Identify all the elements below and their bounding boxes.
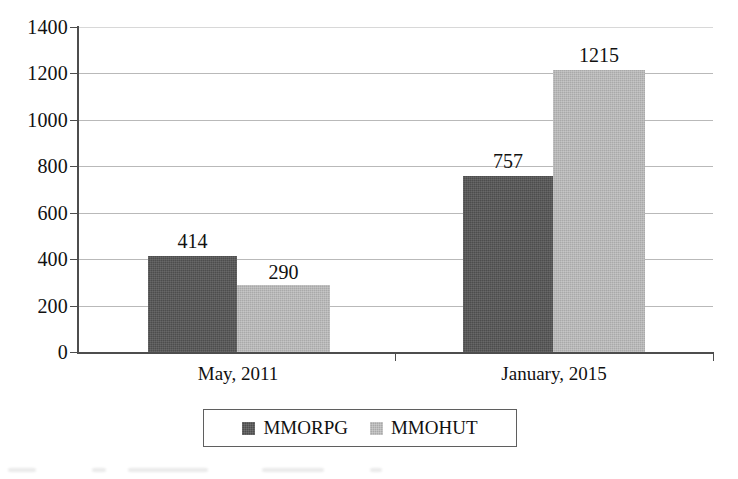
legend-swatch-icon-mmorpg (242, 422, 255, 435)
category-label-may-2011: May, 2011 (128, 362, 348, 386)
legend-item-mmohut[interactable]: MMOHUT (370, 418, 478, 438)
value-label-january-2015-mmorpg: 757 (463, 150, 553, 172)
y-axis-label-0: 0 (6, 342, 68, 362)
legend: MMORPG MMOHUT (203, 409, 517, 447)
legend-swatch-icon-mmohut (370, 422, 383, 435)
scan-artifact (370, 468, 382, 472)
y-axis-label-400: 400 (6, 249, 68, 269)
value-label-may-2011-mmorpg: 414 (148, 230, 237, 252)
scan-artifact (92, 468, 106, 472)
gridline-1400 (78, 27, 713, 28)
bar-may-2011-mmorpg[interactable] (148, 256, 237, 352)
y-axis-label-600: 600 (6, 203, 68, 223)
scan-artifact (128, 468, 208, 472)
y-axis-label-800: 800 (6, 156, 68, 176)
legend-label-mmorpg: MMORPG (263, 418, 347, 438)
bar-may-2011-mmohut[interactable] (237, 285, 330, 352)
x-tick-separator (395, 353, 396, 361)
scan-artifact (262, 468, 324, 472)
y-axis-label-1000: 1000 (6, 110, 68, 130)
value-label-january-2015-mmohut: 1215 (553, 44, 645, 66)
y-axis-label-1200: 1200 (6, 63, 68, 83)
legend-item-mmorpg[interactable]: MMORPG (242, 418, 347, 438)
y-axis-label-200: 200 (6, 296, 68, 316)
category-label-january-2015: January, 2015 (444, 362, 664, 386)
y-axis-line (77, 26, 79, 353)
bar-chart: 1400 1200 1000 800 600 400 200 0 (0, 0, 738, 479)
bar-january-2015-mmorpg[interactable] (463, 176, 553, 352)
plot-area (78, 27, 713, 352)
scan-artifact (8, 468, 36, 472)
value-label-may-2011-mmohut: 290 (237, 261, 330, 283)
y-axis-labels: 1400 1200 1000 800 600 400 200 0 (0, 0, 68, 479)
legend-label-mmohut: MMOHUT (391, 418, 478, 438)
y-axis-label-1400: 1400 (6, 17, 68, 37)
x-tick-right-end (713, 353, 714, 361)
bar-january-2015-mmohut[interactable] (553, 70, 645, 352)
